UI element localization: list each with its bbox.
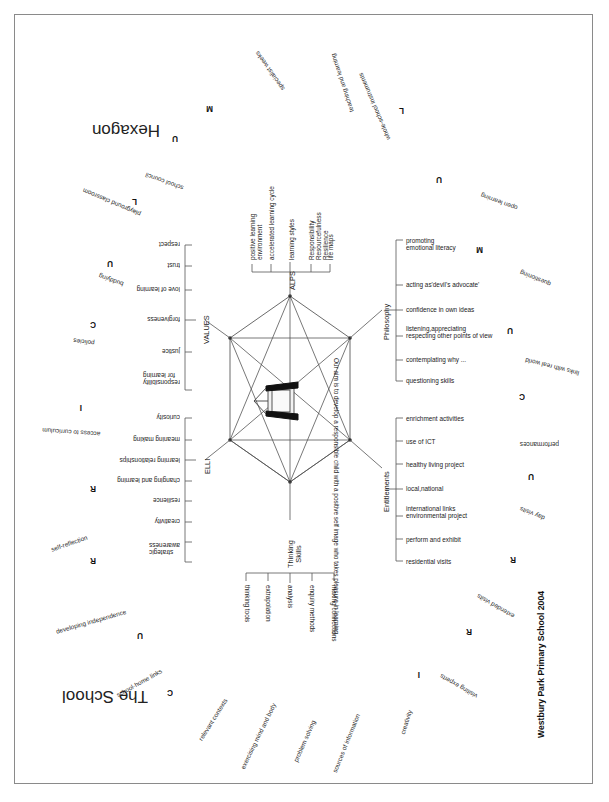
alps-item-2: learning styles [288,219,295,260]
ring-letter-12: R [510,555,516,564]
philosophy-item-3: listening,appreciating respecting other … [406,325,492,339]
page-title: Hexagon [92,121,160,140]
values-item-2: love of learning [137,286,180,293]
elli-item-4: resilience [153,497,180,504]
elli-item-6: strategic awareness [149,542,180,556]
values-item-5: responsibility for learning [143,372,180,386]
elli-item-1: meaning making [133,436,180,443]
branch-label-thinking-skills: Thinking Skills [287,540,304,568]
philosophy-item-2: confidence in own ideas [406,306,474,313]
philosophy-item-4: contemplating why ... [406,356,466,363]
branch-label-alps: ALPS [289,271,297,290]
ring-letter-10: I [418,670,420,679]
entitlements-item-2: healthy living project [406,461,464,468]
entitlements-item-0: enrichment activities [406,415,464,422]
philosophy-item-1: acting as'devil's advocate' [406,281,479,288]
elli-item-0: curiosity [157,414,180,421]
ring-letter-13: U [528,472,534,481]
entitlements-item-5: perform and exhibit [406,536,461,543]
thinking-item-3: enquiry methods [309,585,316,632]
ring-letter-4: C [90,320,96,329]
ring-letter-11: R [466,627,472,636]
ring-letter-17: U [436,175,442,184]
ring-letter-5: I [80,403,82,412]
branch-label-values: VALUES [203,315,211,344]
centre-aim-text: Our aim is to develop a responsible chil… [332,358,340,466]
ring-letter-3: U [107,259,113,268]
ring-letter-8: U [137,631,143,640]
branch-label-elli: ELLI [204,459,212,474]
ring-letter-2: L [132,197,137,206]
alps-item-1: accelerated learning cycle [268,186,275,260]
ring-letter-18: L [399,106,404,115]
values-item-4: justice [162,348,180,355]
entitlements-item-3: local,national [406,485,443,492]
ring-letter-16: M [476,245,483,254]
entitlements-item-1: use of ICT [406,438,435,445]
elli-item-2: learning relationships [120,457,180,464]
alps-item-0: positive learning environment [249,214,263,260]
ring-letter-15: U [507,326,513,335]
alps-item-4: life maps [327,234,334,260]
thinking-item-0: thinking tools [244,585,251,622]
entitlements-item-6: residential visits [406,558,451,565]
ring-letter-9: C [167,688,173,697]
thinking-item-2: analysis [287,585,294,608]
ring-letter-7: R [90,556,96,565]
thinking-item-4: making connections [331,585,338,641]
ring-letter-0: M [206,104,213,113]
cloud-word-performances: performances [520,441,559,448]
philosophy-item-5: questioning skills [406,377,454,384]
elli-item-5: creativity [155,518,180,525]
ring-letter-14: C [519,392,525,401]
philosophy-item-0: promoting emotional literacy [406,237,456,251]
ring-letter-6: R [90,484,96,493]
branch-label-entitlements: Entitlements [383,471,391,512]
branch-label-philosophy: Philosophy [383,304,391,340]
values-item-0: respect [159,241,180,248]
elli-item-3: changing and learning [117,477,180,484]
diagram-page: Our aim is to develop a responsible chil… [0,0,609,802]
thinking-item-1: extrapolation [265,585,272,622]
values-item-3: forgiveness [147,316,180,323]
ring-letter-1: U [172,134,178,143]
values-item-1: trust [168,262,180,269]
page-subtitle: The School [62,687,148,706]
credit-line: Westbury Park Primary School 2004 [537,591,547,738]
entitlements-item-4: international links environmental projec… [406,505,467,519]
